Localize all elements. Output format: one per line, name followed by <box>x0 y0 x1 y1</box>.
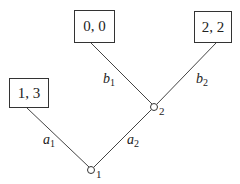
decision-node-1 <box>88 167 95 174</box>
edge-a1 <box>27 108 89 167</box>
payoff-box-1-3: 1, 3 <box>9 78 49 108</box>
action-label-a2: a2 <box>127 133 139 149</box>
payoff-box-2-2: 2, 2 <box>194 11 232 43</box>
decision-node-2 <box>151 104 158 111</box>
edge-b1 <box>91 43 152 104</box>
node-label-1: 1 <box>96 169 102 180</box>
payoff-box-0-0: 0, 0 <box>74 10 115 43</box>
node-label-2: 2 <box>159 106 165 117</box>
edge-a2 <box>94 110 151 167</box>
action-label-b2: b2 <box>196 72 208 88</box>
action-label-b1: b1 <box>103 72 115 88</box>
action-label-a1: a1 <box>43 133 55 149</box>
